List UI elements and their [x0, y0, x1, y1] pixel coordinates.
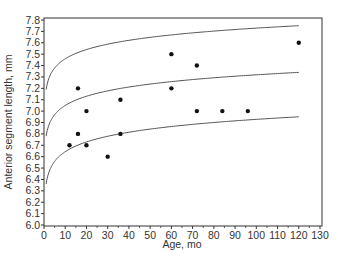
x-tick-label: 50 — [144, 229, 156, 241]
data-point — [84, 143, 88, 147]
data-point — [118, 98, 122, 102]
x-tick-label: 120 — [290, 229, 308, 241]
data-point — [118, 132, 122, 136]
y-tick-label: 6.5 — [25, 162, 40, 174]
y-axis-title: Anterior segment length, mm — [2, 54, 14, 189]
x-tick-label: 90 — [229, 229, 241, 241]
data-point — [246, 109, 250, 113]
data-point — [195, 63, 199, 67]
x-tick-label: 30 — [102, 229, 114, 241]
y-tick-label: 6.8 — [25, 127, 40, 139]
data-point — [105, 154, 109, 158]
data-point — [220, 109, 224, 113]
y-tick-label: 6.6 — [25, 150, 40, 162]
x-tick-label: 20 — [81, 229, 93, 241]
x-tick-label: 10 — [59, 229, 71, 241]
y-tick-label: 7.2 — [25, 82, 40, 94]
y-tick-label: 7.3 — [25, 70, 40, 82]
plot-frame — [44, 18, 322, 226]
y-tick-label: 7.1 — [25, 93, 40, 105]
x-tick-label: 110 — [269, 229, 286, 241]
x-tick-label: 40 — [123, 229, 135, 241]
data-point — [76, 132, 80, 136]
x-tick-label: 100 — [248, 229, 266, 241]
data-point — [84, 109, 88, 113]
y-tick-label: 6.4 — [25, 173, 40, 185]
x-tick-label: 80 — [208, 229, 220, 241]
data-point — [195, 109, 199, 113]
y-tick-label: 6.2 — [25, 196, 40, 208]
y-tick-label: 6.7 — [25, 139, 40, 151]
chart-canvas: 6.06.16.26.36.46.56.66.76.86.97.07.17.27… — [0, 0, 338, 265]
y-tick-label: 7.0 — [25, 105, 40, 117]
y-axis: 6.06.16.26.36.46.56.66.76.86.97.07.17.27… — [25, 14, 44, 231]
data-point — [67, 143, 71, 147]
x-axis-title: Age, mo — [162, 238, 201, 250]
y-tick-label: 7.4 — [25, 59, 40, 71]
data-point — [169, 52, 173, 56]
y-tick-label: 7.5 — [25, 48, 40, 60]
y-tick-label: 6.1 — [25, 207, 40, 219]
x-tick-label: 0 — [41, 229, 47, 241]
y-tick-label: 6.3 — [25, 184, 40, 196]
data-point — [169, 86, 173, 90]
y-tick-label: 6.9 — [25, 116, 40, 128]
data-point — [297, 41, 301, 45]
y-tick-label: 7.6 — [25, 36, 40, 48]
y-tick-label: 6.0 — [25, 219, 40, 231]
x-tick-label: 130 — [311, 229, 329, 241]
data-point — [76, 86, 80, 90]
y-tick-label: 7.8 — [25, 14, 40, 26]
y-tick-label: 7.7 — [25, 25, 40, 37]
